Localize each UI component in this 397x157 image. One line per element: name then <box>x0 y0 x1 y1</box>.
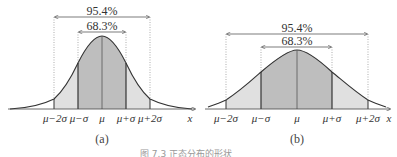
subfigure-label-b: (b) <box>290 132 304 146</box>
tick-label: μ <box>98 112 105 124</box>
outer-pct-a: 95.4% <box>87 4 118 18</box>
tick-label: μ+2σ <box>355 112 380 124</box>
axis-label-a: x <box>187 112 193 124</box>
tick-label: μ <box>293 112 300 124</box>
panel-a: 95.4% 68.3% μ−2σ μ−σ μ μ+σ μ+2σ x (a) <box>8 4 195 146</box>
tick-label: μ+σ <box>322 112 342 124</box>
inner-pct-b: 68.3% <box>282 34 313 48</box>
tick-label: μ+σ <box>116 112 136 124</box>
inner-region-b <box>261 50 332 109</box>
inner-pct-a: 68.3% <box>87 19 118 33</box>
normal-distribution-figure: 95.4% 68.3% μ−2σ μ−σ μ μ+σ μ+2σ x (a) 95… <box>0 0 397 157</box>
axis-label-b: x <box>386 112 392 124</box>
tick-label: μ−σ <box>251 112 271 124</box>
subfigure-label-a: (a) <box>95 132 108 146</box>
tick-label: μ−2σ <box>42 112 67 124</box>
tick-label: μ+2σ <box>137 112 162 124</box>
tick-label: μ−σ <box>69 112 89 124</box>
tick-label: μ−2σ <box>213 112 238 124</box>
figure-caption: 图 7.3 正态分布的形状 <box>140 148 232 157</box>
panel-b: 95.4% 68.3% μ−2σ μ−σ μ μ+σ μ+2σ x (b) <box>205 21 392 146</box>
outer-pct-b: 95.4% <box>282 21 313 35</box>
